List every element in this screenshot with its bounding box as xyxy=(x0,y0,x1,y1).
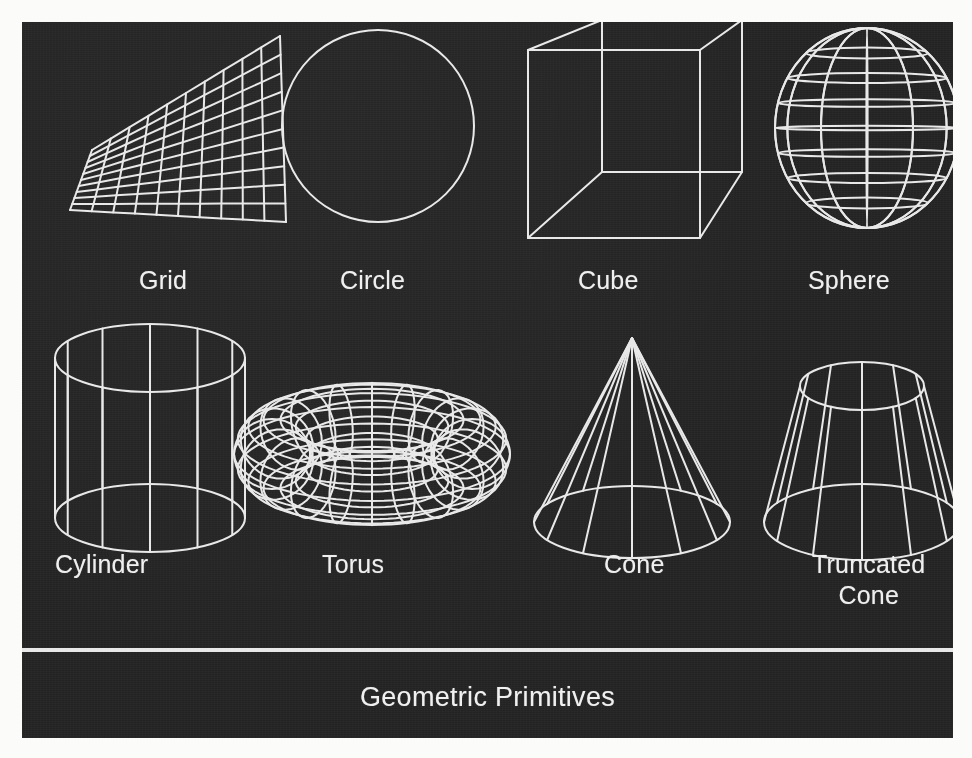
figure-sphere xyxy=(775,28,953,228)
wireframe-figures xyxy=(22,22,953,738)
figure-label-grid: Grid xyxy=(139,265,187,296)
figure-grid xyxy=(70,36,286,222)
figure-circle xyxy=(282,30,474,222)
figure-torus xyxy=(234,383,510,526)
figure-cylinder xyxy=(55,324,245,552)
figure-label-circle: Circle xyxy=(340,265,405,296)
page-root: Grid Circle Cube Sphere Cylinder Torus C… xyxy=(0,0,972,758)
figure-label-cylinder: Cylinder xyxy=(55,549,148,580)
figure-label-cube: Cube xyxy=(578,265,639,296)
figure-cone xyxy=(534,338,730,558)
caption-divider xyxy=(22,648,953,652)
figure-label-cone: Cone xyxy=(604,549,665,580)
figure-panel: Grid Circle Cube Sphere Cylinder Torus C… xyxy=(22,22,953,738)
panel-caption: Geometric Primitives xyxy=(22,682,953,713)
figure-label-truncated-cone: Truncated Cone xyxy=(812,549,925,611)
figure-cube xyxy=(528,22,742,238)
figure-label-torus: Torus xyxy=(322,549,384,580)
figure-truncated-cone xyxy=(764,362,953,560)
figure-label-sphere: Sphere xyxy=(808,265,890,296)
